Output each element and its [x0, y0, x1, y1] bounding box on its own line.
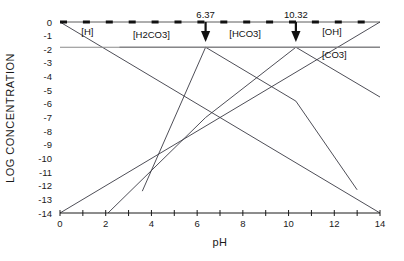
y-tick-label: -13	[38, 194, 52, 205]
x-tick-label: 2	[103, 218, 108, 229]
species-label-h: [H]	[81, 26, 93, 37]
y-tick-label: -14	[38, 208, 52, 219]
species-label-co3: [CO3]	[322, 49, 347, 60]
y-tick-label: -12	[38, 180, 52, 191]
marker-value-label: 6.37	[196, 9, 215, 20]
x-tick-label: 0	[57, 218, 62, 229]
species-label-h2co3: [H2CO3]	[133, 29, 170, 40]
y-tick-label: -2	[44, 44, 52, 55]
marker-value-label: 10.32	[284, 9, 308, 20]
x-tick-label: 12	[329, 218, 340, 229]
y-tick-label: -4	[44, 71, 52, 82]
y-tick-label: -1	[44, 30, 52, 41]
y-tick-label: -6	[44, 98, 52, 109]
x-tick-label: 4	[149, 218, 154, 229]
y-tick-label: -9	[44, 139, 52, 150]
species-label-oh: [OH]	[322, 26, 342, 37]
y-tick-label: -11	[39, 167, 52, 178]
species-label-hco3: [HCO3]	[229, 28, 261, 39]
log-concentration-diagram: 024681012140-1-2-3-4-5-6-7-8-9-10-11-12-…	[0, 0, 404, 261]
y-tick-label: 0	[47, 17, 52, 28]
y-tick-label: -10	[38, 153, 52, 164]
y-tick-label: -8	[44, 126, 52, 137]
y-tick-label: -7	[44, 112, 52, 123]
y-axis-title: LOG CONCENTRATION	[4, 53, 16, 183]
x-axis-title: pH	[212, 236, 227, 248]
x-tick-label: 10	[283, 218, 294, 229]
chart-canvas: 024681012140-1-2-3-4-5-6-7-8-9-10-11-12-…	[0, 0, 404, 261]
x-tick-label: 14	[375, 218, 386, 229]
y-tick-label: -5	[44, 85, 52, 96]
x-tick-label: 8	[240, 218, 245, 229]
x-tick-label: 6	[194, 218, 199, 229]
y-tick-label: -3	[44, 57, 52, 68]
